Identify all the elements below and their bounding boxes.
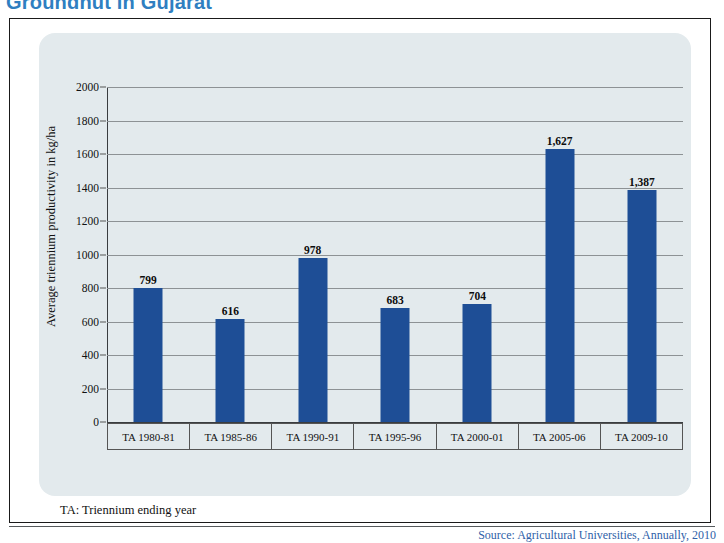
bottom-divider: [9, 526, 715, 527]
category-label: TA 1985-86: [190, 424, 272, 449]
y-axis-tick-label: 1200: [76, 215, 99, 227]
plot-area: 0200400600800100012001400160018002000799…: [107, 87, 683, 422]
bar-ta-1995-96[interactable]: [381, 308, 410, 422]
bar-value-label: 799: [140, 274, 157, 288]
category-label: TA 1990-91: [272, 424, 354, 449]
gridline: [107, 255, 683, 256]
y-axis-tick-label: 200: [82, 383, 99, 395]
y-axis-tick-label: 1600: [76, 148, 99, 160]
y-axis-tick-label: 600: [82, 316, 99, 328]
gridline: [107, 154, 683, 155]
bar-ta-2005-06[interactable]: [545, 149, 574, 422]
y-axis-tick-mark: [100, 221, 106, 222]
y-axis-tick-mark: [100, 254, 106, 255]
bar-ta-1990-91[interactable]: [298, 258, 327, 422]
page-title: Groundnut in Gujarat: [6, 0, 212, 14]
y-axis-tick-label: 400: [82, 349, 99, 361]
gridline: [107, 121, 683, 122]
y-axis-tick-label: 1400: [76, 182, 99, 194]
bar-ta-1985-86[interactable]: [216, 319, 245, 422]
bar-value-label: 1,627: [547, 135, 573, 149]
category-label: TA 1995-96: [354, 424, 436, 449]
source-note: Source: Agricultural Universities, Annua…: [478, 528, 716, 543]
y-axis-tick-mark: [100, 321, 106, 322]
bar-ta-2009-10[interactable]: [627, 190, 656, 422]
category-label: TA 2000-01: [437, 424, 519, 449]
y-axis-tick-label: 0: [93, 416, 99, 428]
category-label: TA 1980-81: [108, 424, 190, 449]
y-axis-tick-label: 1000: [76, 249, 99, 261]
y-axis-tick-label: 800: [82, 282, 99, 294]
category-axis-row: TA 1980-81TA 1985-86TA 1990-91TA 1995-96…: [107, 423, 683, 450]
bar-ta-1980-81[interactable]: [134, 288, 163, 422]
y-axis-tick-mark: [100, 355, 106, 356]
y-axis-tick-mark: [100, 120, 106, 121]
figure-frame: Average triennium productivity in kg/ha …: [9, 18, 711, 523]
footnote: TA: Triennium ending year: [60, 503, 196, 518]
y-axis-tick-mark: [100, 87, 106, 88]
bar-ta-2000-01[interactable]: [463, 304, 492, 422]
y-axis-tick-label: 1800: [76, 115, 99, 127]
gridline: [107, 221, 683, 222]
gridline: [107, 288, 683, 289]
y-axis-tick-mark: [100, 154, 106, 155]
category-label: TA 2005-06: [519, 424, 601, 449]
category-label: TA 2009-10: [601, 424, 682, 449]
y-axis-tick-mark: [100, 187, 106, 188]
bar-value-label: 1,387: [629, 176, 655, 190]
bar-value-label: 704: [469, 290, 486, 304]
bar-value-label: 683: [386, 294, 403, 308]
bar-value-label: 616: [222, 305, 239, 319]
gridline: [107, 87, 683, 88]
bar-value-label: 978: [304, 244, 321, 258]
gridline: [107, 188, 683, 189]
y-axis-tick-mark: [100, 422, 106, 423]
y-axis-tick-label: 2000: [76, 81, 99, 93]
y-axis-title: Average triennium productivity in kg/ha: [44, 122, 59, 332]
y-axis-tick-mark: [100, 288, 106, 289]
y-axis-tick-mark: [100, 388, 106, 389]
